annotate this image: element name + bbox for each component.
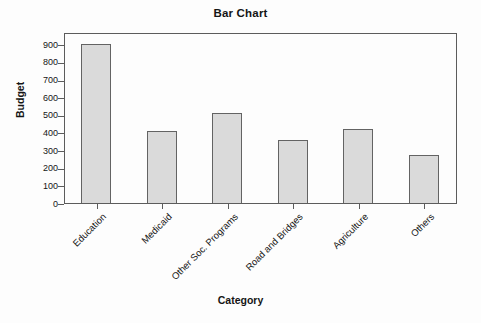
y-tick-label-500: 500: [26, 111, 58, 120]
y-tick-label-200: 200: [26, 164, 58, 173]
bar-road-and-bridges: [278, 140, 308, 203]
bar-others: [409, 155, 439, 203]
y-tick-mark: [58, 133, 64, 134]
x-category-label: Others: [408, 211, 436, 239]
chart-title: Bar Chart: [0, 7, 481, 19]
y-tick-label-700: 700: [26, 76, 58, 85]
x-category-label: Medicaid: [139, 211, 174, 246]
bar-chart-figure: Bar Chart Budget Category 01002003004005…: [0, 0, 481, 323]
x-tick-mark: [293, 204, 294, 209]
y-tick-label-600: 600: [26, 94, 58, 103]
bar-education: [81, 44, 111, 203]
y-tick-mark: [58, 116, 64, 117]
x-tick-mark: [228, 204, 229, 209]
x-category-label: Education: [71, 211, 109, 249]
y-tick-mark: [58, 45, 64, 46]
bar-agriculture: [343, 129, 373, 203]
x-tick-mark: [162, 204, 163, 209]
y-tick-label-900: 900: [26, 41, 58, 50]
x-category-label: Agriculture: [331, 211, 371, 251]
bar-other-soc-programs: [212, 113, 242, 203]
y-tick-mark: [58, 98, 64, 99]
x-category-label: Other Soc. Programs: [169, 211, 240, 282]
x-tick-mark: [359, 204, 360, 209]
y-tick-mark: [58, 204, 64, 205]
y-tick-mark: [58, 151, 64, 152]
y-tick-label-0: 0: [26, 200, 58, 209]
y-tick-label-300: 300: [26, 147, 58, 156]
y-tick-mark: [58, 63, 64, 64]
x-tick-mark: [97, 204, 98, 209]
x-category-label: Road and Bridges: [243, 211, 305, 273]
y-tick-mark: [58, 186, 64, 187]
x-axis-label: Category: [0, 294, 481, 306]
plot-area: [64, 33, 457, 204]
y-tick-mark: [58, 169, 64, 170]
y-tick-label-800: 800: [26, 58, 58, 67]
y-tick-label-100: 100: [26, 182, 58, 191]
y-tick-label-400: 400: [26, 129, 58, 138]
x-tick-mark: [424, 204, 425, 209]
bar-medicaid: [147, 131, 177, 203]
y-tick-mark: [58, 81, 64, 82]
